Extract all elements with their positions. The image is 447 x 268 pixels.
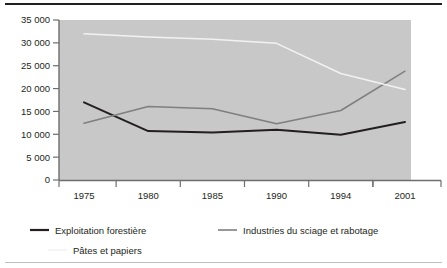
y-tick-label: 15 000 <box>21 106 50 117</box>
x-tick-label: 2001 <box>394 190 415 201</box>
x-axis-tick-labels: 197519801985199019942001 <box>73 190 415 201</box>
legend-item: Industries du sciage et rabotage <box>218 225 378 236</box>
x-tick-label: 1980 <box>138 190 159 201</box>
y-axis-tick-labels: 05 00010 00015 00020 00025 00030 00035 0… <box>21 14 50 185</box>
legend-item: Pâtes et papiers <box>48 245 142 256</box>
chart-legend: Exploitation forestièreIndustries du sci… <box>30 225 378 256</box>
y-axis-ticks <box>53 20 59 180</box>
x-axis-ticks <box>59 181 441 188</box>
chart-figure: 05 00010 00015 00020 00025 00030 00035 0… <box>0 0 447 268</box>
legend-item: Exploitation forestière <box>30 225 146 236</box>
y-tick-label: 30 000 <box>21 37 50 48</box>
x-tick-label: 1985 <box>202 190 223 201</box>
y-tick-label: 20 000 <box>21 83 50 94</box>
x-tick-label: 1994 <box>330 190 351 201</box>
y-tick-label: 25 000 <box>21 60 50 71</box>
y-tick-label: 35 000 <box>21 14 50 25</box>
x-tick-label: 1975 <box>73 190 94 201</box>
legend-label: Pâtes et papiers <box>73 245 142 256</box>
line-chart: 05 00010 00015 00020 00025 00030 00035 0… <box>0 0 447 268</box>
legend-label: Exploitation forestière <box>55 225 146 236</box>
x-tick-label: 1990 <box>266 190 287 201</box>
y-tick-label: 10 000 <box>21 129 50 140</box>
y-tick-label: 0 <box>45 174 50 185</box>
y-tick-label: 5 000 <box>26 152 50 163</box>
chart-svg: 05 00010 00015 00020 00025 00030 00035 0… <box>0 0 447 268</box>
legend-label: Industries du sciage et rabotage <box>243 225 378 236</box>
